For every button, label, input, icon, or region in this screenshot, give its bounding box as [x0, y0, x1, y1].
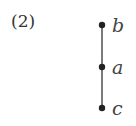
node-c — [99, 105, 105, 111]
node-label-b: b — [112, 14, 124, 36]
node-label-a: a — [112, 56, 123, 78]
hasse-diagram: b a c — [0, 0, 136, 126]
node-b — [99, 22, 105, 28]
node-a — [99, 64, 105, 70]
node-label-c: c — [112, 97, 123, 119]
